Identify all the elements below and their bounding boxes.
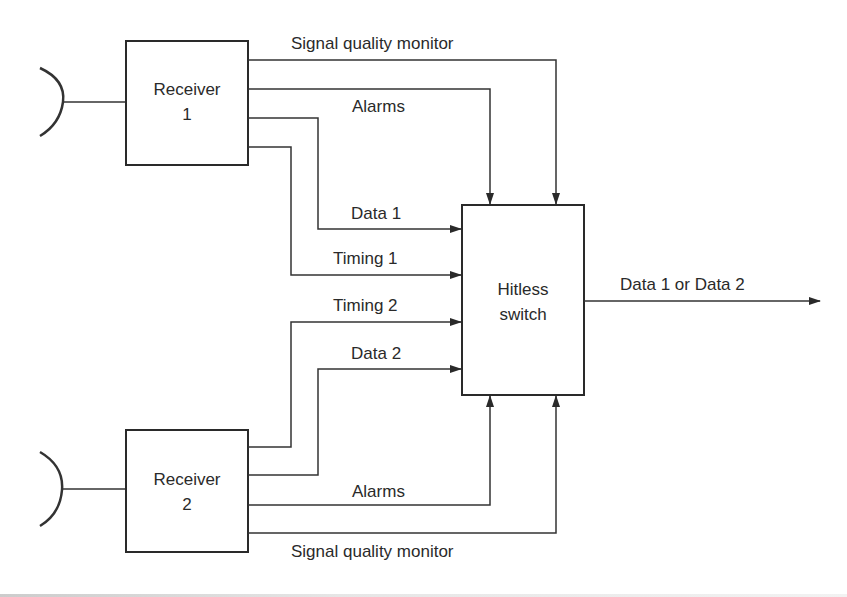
hitless-switch-block xyxy=(462,205,584,395)
wire-sqm-1 xyxy=(248,60,556,204)
hitless-switch-label: Hitless xyxy=(497,280,548,299)
label-timing-2: Timing 2 xyxy=(333,296,398,315)
hitless-switch-label-2: switch xyxy=(499,305,546,324)
wire-sqm-2 xyxy=(248,396,556,533)
label-data-1: Data 1 xyxy=(351,204,401,223)
label-sqm-2: Signal quality monitor xyxy=(291,542,454,561)
hitless-switch-diagram: Receiver 1 Receiver 2 Hitless switch Sig… xyxy=(0,0,847,597)
wire-data-2 xyxy=(248,369,461,475)
label-timing-1: Timing 1 xyxy=(333,249,398,268)
label-output: Data 1 or Data 2 xyxy=(620,275,745,294)
receiver-1-block xyxy=(126,41,248,165)
receiver-2-block xyxy=(126,430,248,552)
wire-timing-2 xyxy=(248,322,461,447)
antenna-1-icon xyxy=(40,68,63,136)
label-alarms-2: Alarms xyxy=(352,482,405,501)
label-alarms-1: Alarms xyxy=(352,97,405,116)
antenna-2-icon xyxy=(40,452,62,526)
receiver-1-number: 1 xyxy=(182,105,191,124)
receiver-2-number: 2 xyxy=(182,495,191,514)
receiver-2-label: Receiver xyxy=(153,470,220,489)
label-data-2: Data 2 xyxy=(351,344,401,363)
label-sqm-1: Signal quality monitor xyxy=(291,34,454,53)
receiver-1-label: Receiver xyxy=(153,80,220,99)
